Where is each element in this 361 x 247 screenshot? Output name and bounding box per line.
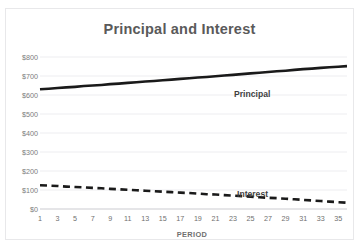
series-label-principal: Principal <box>234 89 270 99</box>
x-tick-label: 11 <box>124 214 131 223</box>
x-tick-label: 27 <box>264 214 272 223</box>
x-tick-label: 13 <box>141 214 149 223</box>
plot-area: $0$100$200$300$400$500$600$700$800 13579… <box>6 9 353 239</box>
x-tick-label: 7 <box>91 214 95 223</box>
x-tick-label: 3 <box>56 214 60 223</box>
x-axis-title: PERIOD <box>39 230 345 239</box>
x-tick-label: 21 <box>211 214 219 223</box>
x-tick-label: 5 <box>73 214 77 223</box>
x-tick-label: 35 <box>334 214 342 223</box>
x-tick-label: 23 <box>229 214 237 223</box>
chart-container: Principal and Interest $0$100$200$300$40… <box>5 8 354 240</box>
x-axis: 1357911131517192123252729313335 <box>6 9 353 239</box>
x-tick-label: 31 <box>299 214 307 223</box>
x-tick-label: 29 <box>282 214 290 223</box>
x-tick-label: 25 <box>247 214 255 223</box>
series-label-interest: Interest <box>237 189 268 199</box>
x-tick-label: 19 <box>194 214 202 223</box>
x-tick-label: 9 <box>108 214 112 223</box>
x-tick-label: 17 <box>176 214 184 223</box>
x-tick-label: 15 <box>159 214 167 223</box>
x-tick-label: 1 <box>38 214 42 223</box>
x-tick-label: 33 <box>317 214 325 223</box>
